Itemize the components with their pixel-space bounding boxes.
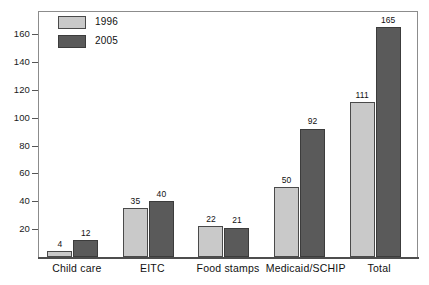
bar-value-label: 92	[300, 117, 325, 126]
legend-label-1996: 1996	[95, 17, 118, 27]
bar-value-label: 21	[224, 216, 249, 225]
x-tick-label-eitc: EITC	[115, 263, 191, 274]
y-axis: 20406080100120140160	[0, 0, 38, 285]
bar-value-label: 12	[73, 229, 98, 238]
bar-value-label: 4	[47, 240, 72, 249]
y-tick-label: 160	[14, 30, 30, 40]
bar-group: 3540	[115, 12, 191, 257]
legend-label-2005: 2005	[95, 36, 118, 46]
bar-total-2005	[376, 27, 401, 257]
x-tick-label-total: Total	[341, 263, 417, 274]
y-tick-label: 140	[14, 57, 30, 67]
bar-group: 5092	[266, 12, 342, 257]
legend-item-1996: 1996	[58, 15, 118, 29]
x-tick-label-medicaid-schip: Medicaid/SCHIP	[266, 263, 342, 274]
legend-item-2005: 2005	[58, 34, 118, 48]
x-axis-baseline	[38, 257, 419, 259]
legend-swatch-1996-icon	[58, 16, 86, 29]
x-tick-label-child-care: Child care	[39, 263, 115, 274]
bar-child-care-2005	[73, 240, 98, 257]
y-tick-label: 120	[14, 85, 30, 95]
legend-swatch-2005-icon	[58, 35, 86, 48]
bar-group: 111165	[341, 12, 417, 257]
y-tick-label: 80	[19, 141, 30, 151]
y-tick-label: 60	[19, 169, 30, 179]
bar-food-stamps-2005	[224, 228, 249, 257]
bar-value-label: 111	[350, 91, 375, 100]
bar-value-label: 35	[123, 197, 148, 206]
bar-medicaid-schip-2005	[300, 129, 325, 257]
bar-value-label: 165	[376, 16, 401, 25]
y-tick-label: 100	[14, 113, 30, 123]
bar-eitc-2005	[149, 201, 174, 257]
bar-medicaid-schip-1996	[274, 187, 299, 257]
bar-eitc-1996	[123, 208, 148, 257]
y-tick-label: 40	[19, 197, 30, 207]
bar-child-care-1996	[47, 251, 72, 257]
bar-total-1996	[350, 102, 375, 257]
bar-value-label: 40	[149, 190, 174, 199]
bar-value-label: 50	[274, 176, 299, 185]
bar-group: 2221	[190, 12, 266, 257]
bar-food-stamps-1996	[198, 226, 223, 257]
bar-value-label: 22	[198, 215, 223, 224]
y-tick-label: 20	[19, 224, 30, 234]
x-tick-label-food-stamps: Food stamps	[190, 263, 266, 274]
legend: 1996 2005	[58, 15, 118, 53]
bar-chart: 20406080100120140160 4123540222150921111…	[0, 0, 429, 285]
